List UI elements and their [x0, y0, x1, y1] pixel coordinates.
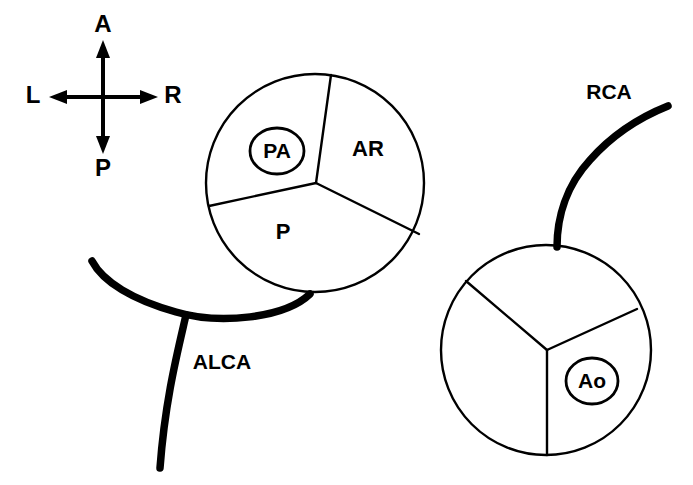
ao-commissure-upper-right	[547, 309, 637, 350]
compass-arrow-left-icon	[49, 90, 67, 104]
anomalous-left-coronary-artery: ALCA	[92, 261, 310, 468]
alca-descending-branch	[160, 315, 186, 468]
compass-label-posterior: P	[95, 154, 111, 181]
compass-label-right: R	[164, 81, 181, 108]
pa-sinus-label-ar: AR	[352, 136, 384, 161]
compass-label-left: L	[26, 81, 41, 108]
pa-commissure-right	[316, 183, 419, 234]
right-coronary-artery: RCA	[557, 80, 668, 247]
ao-callout-label: Ao	[578, 369, 606, 392]
compass-arrow-posterior-icon	[96, 136, 110, 154]
pa-callout-label: PA	[263, 139, 291, 162]
rca-label: RCA	[586, 80, 632, 103]
orientation-compass: A P L R	[26, 10, 182, 181]
aorta-cross-section: Ao	[441, 245, 651, 455]
compass-arrow-right-icon	[140, 90, 158, 104]
pulmonary-artery-cross-section: PA AR P	[206, 74, 424, 292]
alca-label: ALCA	[193, 350, 251, 373]
pa-sinus-label-p: P	[276, 219, 291, 244]
ao-commissure-upper-left	[466, 281, 547, 350]
pa-commissure-superior	[316, 75, 331, 183]
compass-arrow-anterior-icon	[96, 40, 110, 58]
coronary-anatomy-figure: A P L R PA AR P Ao	[0, 0, 693, 485]
diagram-canvas: A P L R PA AR P Ao	[0, 0, 693, 485]
pa-commissure-left	[209, 183, 316, 206]
alca-main-trunk	[92, 261, 310, 318]
compass-label-anterior: A	[94, 10, 111, 37]
rca-trunk	[557, 106, 668, 247]
